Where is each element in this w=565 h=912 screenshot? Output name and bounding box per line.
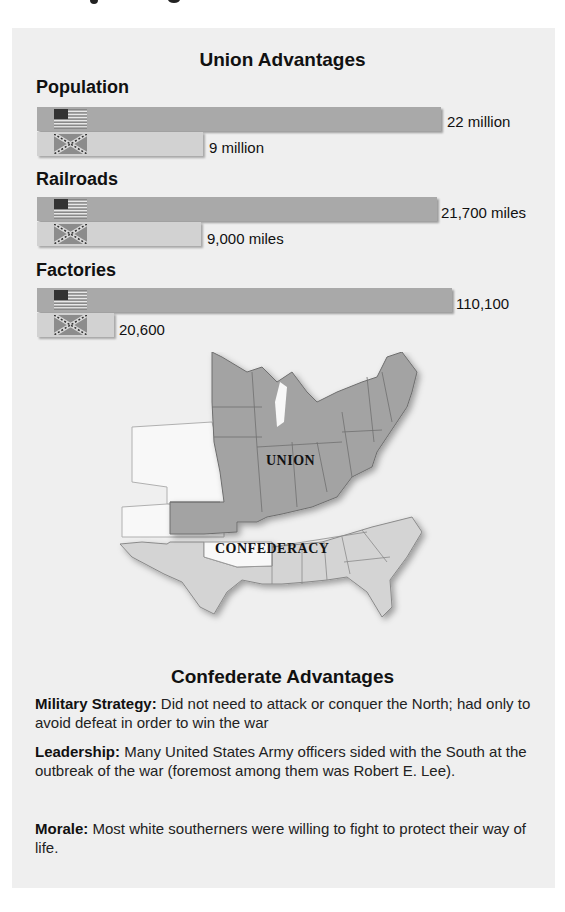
us-flag-icon (54, 109, 87, 129)
value-confederate-railroads: 9,000 miles (207, 230, 284, 247)
value-union-railroads: 21,700 miles (441, 204, 526, 221)
value-union-population: 22 million (447, 113, 510, 130)
advantage-leadership: Leadership: Many United States Army offi… (35, 742, 535, 780)
bar-confederate-railroads (37, 222, 201, 246)
advantage-text: Most white southerners were willing to f… (35, 820, 526, 856)
value-confederate-factories: 20,600 (119, 321, 165, 338)
advantage-term: Morale: (35, 820, 88, 837)
bar-union-railroads (37, 197, 437, 221)
us-flag-icon (54, 199, 87, 219)
bar-confederate-population (37, 132, 203, 156)
us-states-map-graphic (112, 352, 442, 632)
category-label-population: Population (36, 77, 129, 98)
value-confederate-population: 9 million (209, 139, 264, 156)
union-advantages-title: Union Advantages (0, 49, 565, 71)
advantage-term: Military Strategy: (35, 695, 157, 712)
us-flag-icon (54, 290, 87, 310)
bar-confederate-factories (37, 313, 114, 337)
value-union-factories: 110,100 (456, 295, 509, 312)
bar-union-factories (37, 288, 452, 312)
advantage-morale: Morale: Most white southerners were will… (35, 819, 535, 857)
category-label-factories: Factories (36, 260, 116, 281)
bar-union-population (37, 107, 441, 131)
advantage-term: Leadership: (35, 743, 120, 760)
advantage-military-strategy: Military Strategy: Did not need to attac… (35, 694, 535, 732)
map-label-union: UNION (266, 453, 315, 469)
clipped-heading-fragment (0, 0, 565, 8)
confederate-flag-icon (54, 315, 87, 335)
confederate-flag-icon (54, 134, 87, 154)
category-label-railroads: Railroads (36, 169, 118, 190)
confederate-advantages-title: Confederate Advantages (0, 666, 565, 688)
confederate-flag-icon (54, 224, 87, 244)
union-confederacy-map: UNION CONFEDERACY (112, 352, 442, 632)
map-label-confederacy: CONFEDERACY (215, 541, 329, 557)
